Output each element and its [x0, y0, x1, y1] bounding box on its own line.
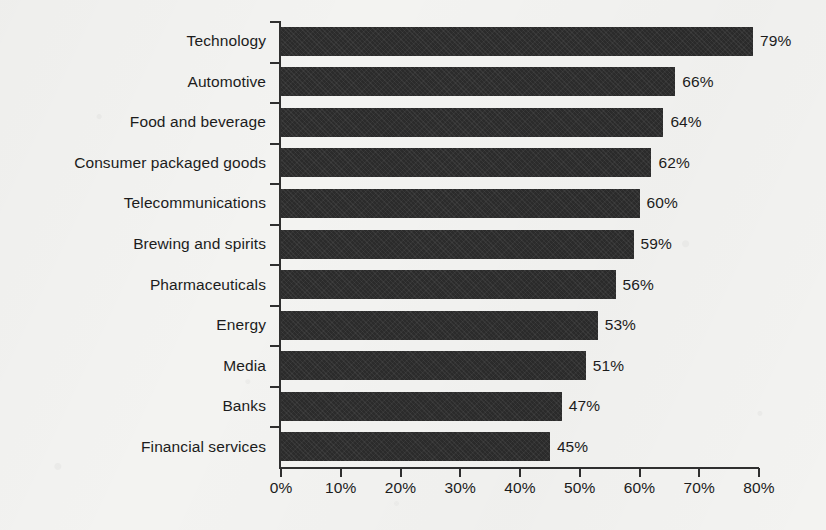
x-axis-tick [459, 468, 461, 477]
bar-value-label: 47% [569, 397, 600, 415]
x-axis-tick-label: 60% [624, 479, 655, 497]
category-label: Automotive [187, 73, 266, 91]
x-axis-tick-label: 0% [270, 479, 293, 497]
category-label: Food and beverage [130, 113, 266, 131]
category-label: Consumer packaged goods [74, 154, 266, 172]
bar [281, 311, 598, 340]
bar [281, 148, 651, 177]
bar-value-label: 51% [593, 357, 624, 375]
y-axis-tick [270, 143, 280, 145]
category-label: Banks [222, 397, 266, 415]
y-axis-tick [270, 426, 280, 428]
bar-value-label: 64% [670, 113, 701, 131]
bar-value-label: 60% [647, 194, 678, 212]
bar [281, 230, 634, 259]
y-axis-tick [270, 62, 280, 64]
y-axis-tick [270, 102, 280, 104]
category-label: Financial services [141, 438, 266, 456]
y-axis-tick [270, 305, 280, 307]
x-axis-tick-label: 40% [504, 479, 535, 497]
y-axis-tick [270, 21, 280, 23]
x-axis-tick-label: 70% [684, 479, 715, 497]
x-axis-tick [758, 468, 760, 477]
y-axis-tick [270, 264, 280, 266]
category-label: Media [223, 357, 266, 375]
bar-value-label: 62% [658, 154, 689, 172]
x-axis-tick [579, 468, 581, 477]
y-axis-tick [270, 345, 280, 347]
bar [281, 27, 753, 56]
bar-value-label: 45% [557, 438, 588, 456]
category-label: Telecommunications [124, 194, 266, 212]
x-axis-tick-label: 80% [743, 479, 774, 497]
bar [281, 392, 562, 421]
category-label: Technology [187, 32, 266, 50]
bar [281, 270, 616, 299]
bar-value-label: 56% [623, 276, 654, 294]
bar [281, 351, 586, 380]
x-axis-tick-label: 10% [325, 479, 356, 497]
y-axis-tick [270, 183, 280, 185]
x-axis-tick-label: 50% [564, 479, 595, 497]
x-axis-tick [639, 468, 641, 477]
bar-value-label: 53% [605, 316, 636, 334]
category-label: Energy [216, 316, 266, 334]
x-axis-tick [340, 468, 342, 477]
bar-chart: TechnologyAutomotiveFood and beverageCon… [0, 0, 826, 530]
x-axis-tick-label: 20% [385, 479, 416, 497]
bar-value-label: 59% [641, 235, 672, 253]
bar [281, 108, 663, 137]
bar-value-label: 79% [760, 32, 791, 50]
category-label: Brewing and spirits [133, 235, 266, 253]
bar [281, 432, 550, 461]
y-axis-tick [270, 224, 280, 226]
x-axis-tick [519, 468, 521, 477]
x-axis-tick [698, 468, 700, 477]
category-label: Pharmaceuticals [150, 276, 266, 294]
x-axis-tick [400, 468, 402, 477]
bar [281, 189, 640, 218]
x-axis-tick-label: 30% [445, 479, 476, 497]
bar [281, 67, 675, 96]
y-axis-tick [270, 386, 280, 388]
x-axis-tick [280, 468, 282, 477]
bar-value-label: 66% [682, 73, 713, 91]
